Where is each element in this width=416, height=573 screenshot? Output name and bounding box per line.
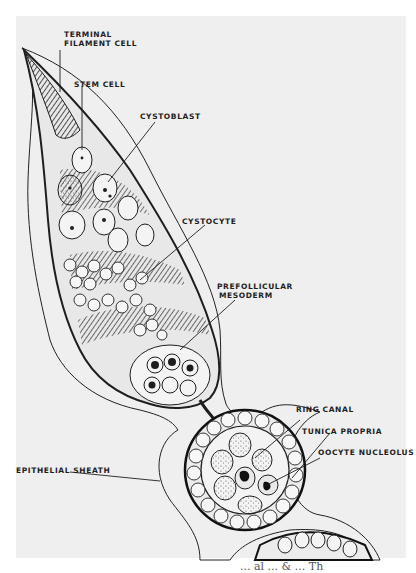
label-line: RING CANAL xyxy=(296,405,354,414)
label-oocyte-nucleolus: OOCYTE NUCLEOLUS xyxy=(318,448,414,457)
label-ring-canal: RING CANAL xyxy=(296,405,354,414)
label-prefollicular-mesoderm: PREFOLLICULAR MESODERM xyxy=(217,282,293,300)
label-line: OOCYTE NUCLEOLUS xyxy=(318,448,414,457)
label-cystocyte: CYSTOCYTE xyxy=(182,217,236,226)
label-cystoblast: CYSTOBLAST xyxy=(140,112,201,121)
label-line: STEM CELL xyxy=(74,80,125,89)
label-terminal-filament-cell: TERMINAL FILAMENT CELL xyxy=(64,30,137,48)
label-line: CYSTOCYTE xyxy=(182,217,236,226)
label-line: PREFOLLICULAR xyxy=(217,282,293,291)
label-line: EPITHELIAL SHEATH xyxy=(16,466,110,475)
egg-chamber xyxy=(185,410,305,530)
label-line: MESODERM xyxy=(217,291,293,300)
label-line: TERMINAL xyxy=(64,30,137,39)
caption-fragment: ... al ... & ... Th xyxy=(240,560,323,573)
label-tunica-propria: TUNICA PROPRIA xyxy=(302,427,382,436)
label-stem-cell: STEM CELL xyxy=(74,80,125,89)
label-line: FILAMENT CELL xyxy=(64,39,137,48)
next-egg-chamber xyxy=(255,532,372,560)
label-line: TUNICA PROPRIA xyxy=(302,427,382,436)
label-epithelial-sheath: EPITHELIAL SHEATH xyxy=(16,466,110,475)
label-line: CYSTOBLAST xyxy=(140,112,201,121)
germarium-cyst xyxy=(130,345,210,405)
